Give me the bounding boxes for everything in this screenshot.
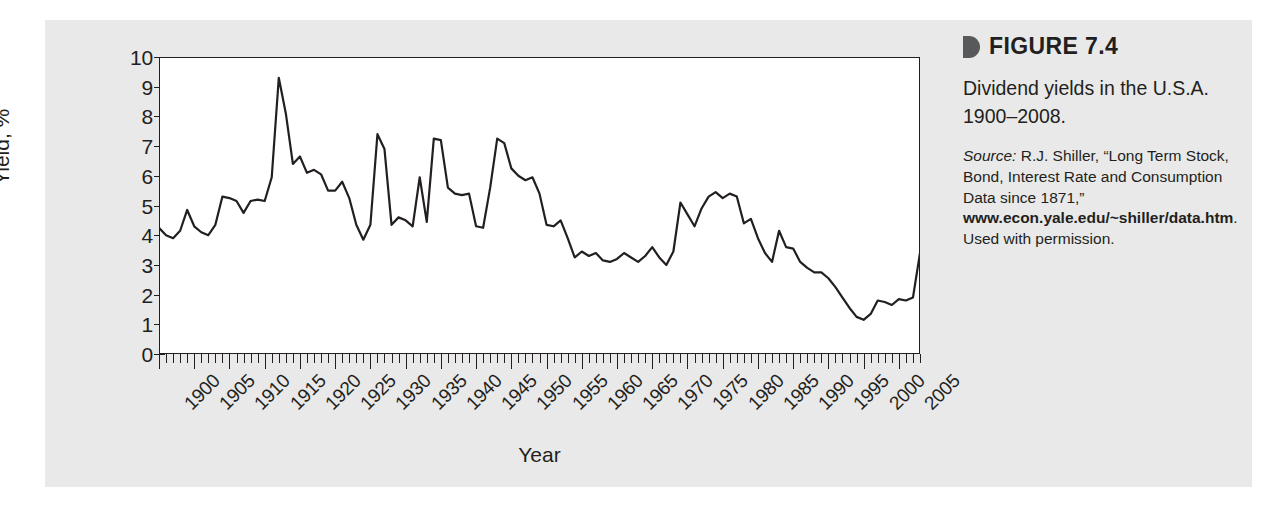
x-tick-minor	[807, 354, 808, 363]
x-tick-minor	[525, 354, 526, 363]
x-tick-label: 1925	[356, 370, 401, 415]
x-tick-minor	[483, 354, 484, 363]
x-tick-label: 1980	[744, 370, 789, 415]
x-tick-minor	[420, 354, 421, 363]
x-tick-minor	[392, 354, 393, 363]
triangle-right-icon	[963, 36, 980, 58]
x-tick-major	[229, 354, 230, 369]
x-tick-major	[617, 354, 618, 369]
x-tick-minor	[490, 354, 491, 363]
x-tick-minor	[554, 354, 555, 363]
x-tick-minor	[631, 354, 632, 363]
x-tick-major	[547, 354, 548, 369]
x-tick-minor	[307, 354, 308, 363]
x-tick-minor	[215, 354, 216, 363]
x-tick-major	[582, 354, 583, 369]
y-axis-title: Yield, %	[0, 109, 14, 185]
x-tick-minor	[272, 354, 273, 363]
x-tick-minor	[892, 354, 893, 363]
x-tick-label: 1965	[638, 370, 683, 415]
x-tick-major	[758, 354, 759, 369]
x-tick-minor	[448, 354, 449, 363]
figure-description: Dividend yields in the U.S.A. 1900–2008.	[963, 75, 1235, 130]
x-tick-label: 1970	[673, 370, 718, 415]
y-tick-label: 8	[119, 106, 153, 127]
x-tick-minor	[885, 354, 886, 363]
x-tick-minor	[871, 354, 872, 363]
x-tick-minor	[603, 354, 604, 363]
x-tick-label: 1955	[568, 370, 613, 415]
x-tick-major	[723, 354, 724, 369]
x-tick-minor	[413, 354, 414, 363]
x-tick-minor	[363, 354, 364, 363]
y-tick-label: 4	[119, 225, 153, 246]
x-tick-minor	[251, 354, 252, 363]
x-tick-label: 1950	[532, 370, 577, 415]
x-tick-minor	[737, 354, 738, 363]
y-axis-ticks: 012345678910	[113, 57, 153, 354]
x-tick-minor	[814, 354, 815, 363]
x-tick-minor	[610, 354, 611, 363]
x-tick-label: 1945	[497, 370, 542, 415]
x-tick-label: 1935	[427, 370, 472, 415]
x-tick-minor	[730, 354, 731, 363]
x-tick-minor	[850, 354, 851, 363]
x-tick-minor	[201, 354, 202, 363]
x-tick-minor	[786, 354, 787, 363]
x-tick-minor	[666, 354, 667, 363]
x-tick-minor	[575, 354, 576, 363]
y-tick-label: 2	[119, 284, 153, 305]
figure-source: Source: R.J. Shiller, “Long Term Stock, …	[963, 146, 1235, 249]
x-tick-minor	[455, 354, 456, 363]
x-tick-minor	[716, 354, 717, 363]
x-tick-minor	[180, 354, 181, 363]
x-tick-label: 1900	[180, 370, 225, 415]
x-tick-minor	[356, 354, 357, 363]
x-tick-major	[899, 354, 900, 369]
x-tick-label: 1920	[321, 370, 366, 415]
x-tick-minor	[920, 354, 921, 363]
x-axis-tick-labels: 1900190519101915192019251930193519401945…	[159, 370, 920, 440]
x-tick-minor	[469, 354, 470, 363]
x-tick-label: 1905	[215, 370, 260, 415]
x-tick-minor	[680, 354, 681, 363]
x-tick-label: 1995	[849, 370, 894, 415]
x-tick-minor	[427, 354, 428, 363]
x-tick-minor	[702, 354, 703, 363]
x-tick-minor	[434, 354, 435, 363]
x-tick-major	[300, 354, 301, 369]
x-tick-minor	[821, 354, 822, 363]
source-url[interactable]: www.econ.yale.edu/~shiller/data.htm	[963, 209, 1233, 226]
x-tick-minor	[173, 354, 174, 363]
x-tick-major	[441, 354, 442, 369]
y-tick-label: 5	[119, 195, 153, 216]
x-tick-minor	[659, 354, 660, 363]
x-tick-minor	[596, 354, 597, 363]
y-tick-label: 9	[119, 76, 153, 97]
x-tick-label: 1915	[286, 370, 331, 415]
x-tick-label: 1985	[779, 370, 824, 415]
x-tick-minor	[462, 354, 463, 363]
x-tick-minor	[321, 354, 322, 363]
dividend-yield-line	[159, 78, 920, 320]
x-tick-minor	[384, 354, 385, 363]
x-tick-minor	[695, 354, 696, 363]
x-tick-minor	[673, 354, 674, 363]
x-tick-minor	[638, 354, 639, 363]
yield-line-series	[159, 57, 920, 354]
x-tick-minor	[244, 354, 245, 363]
x-tick-major	[864, 354, 865, 369]
x-tick-minor	[187, 354, 188, 363]
x-tick-major	[265, 354, 266, 369]
x-tick-major	[335, 354, 336, 369]
x-tick-label: 1910	[250, 370, 295, 415]
x-tick-label: 1940	[462, 370, 507, 415]
x-tick-minor	[166, 354, 167, 363]
x-tick-minor	[835, 354, 836, 363]
x-tick-minor	[568, 354, 569, 363]
x-tick-minor	[504, 354, 505, 363]
y-tick-label: 7	[119, 136, 153, 157]
x-tick-minor	[561, 354, 562, 363]
x-tick-minor	[765, 354, 766, 363]
figure-caption: FIGURE 7.4 Dividend yields in the U.S.A.…	[963, 33, 1235, 249]
